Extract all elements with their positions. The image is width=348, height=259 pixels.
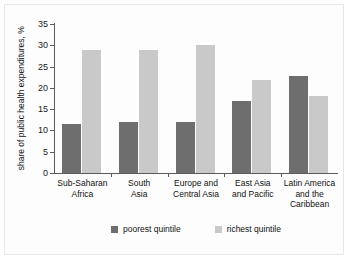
category-label-line: and the (281, 189, 338, 200)
plot-area: 05101520253035 (54, 24, 338, 173)
category-label-line: Sub-Saharan (54, 178, 111, 189)
category-label-line: East Asia (224, 178, 281, 189)
category-label-line: and Pacific (224, 189, 281, 200)
category-label-line: Latin America (281, 178, 338, 189)
legend-swatch-icon (111, 226, 118, 233)
y-axis-tick-mark (50, 67, 54, 68)
y-axis-tick-label: 0 (43, 169, 48, 178)
bar-chart-figure: share of public health expenditures, % 0… (0, 0, 348, 259)
category-label-line: Asia (111, 189, 168, 200)
category-label-line: Europe and (168, 178, 225, 189)
bar (82, 50, 101, 173)
x-axis-tick-mark (168, 173, 169, 177)
legend-label: richest quintile (227, 225, 281, 234)
category-label-line: Central Asia (168, 189, 225, 200)
bar (139, 50, 158, 173)
x-axis-line (54, 173, 338, 174)
legend-swatch-icon (215, 226, 222, 233)
bar (62, 124, 81, 173)
y-axis-tick-mark (50, 109, 54, 110)
y-axis-tick-label: 5 (43, 147, 48, 156)
y-axis-tick-mark (50, 152, 54, 153)
category-label-line: South (111, 178, 168, 189)
x-axis-tick-mark (111, 173, 112, 177)
bar (196, 45, 215, 173)
bar (289, 76, 308, 173)
y-axis-tick-mark (50, 88, 54, 89)
bar (252, 80, 271, 173)
x-axis-category-label: East Asiaand Pacific (224, 178, 281, 199)
category-label-line: Africa (54, 189, 111, 200)
y-axis-tick-label: 15 (38, 105, 48, 114)
x-axis-tick-mark (224, 173, 225, 177)
x-axis-category-label: SouthAsia (111, 178, 168, 199)
y-axis-tick-mark (50, 173, 54, 174)
y-axis-title: share of public health expenditures, % (14, 24, 28, 173)
x-axis-category-label: Sub-SaharanAfrica (54, 178, 111, 199)
y-axis-tick-label: 30 (38, 41, 48, 50)
x-axis-category-label: Latin Americaand theCaribbean (281, 178, 338, 210)
bar (119, 122, 138, 173)
y-axis-tick-label: 35 (38, 20, 48, 29)
legend-label: poorest quintile (123, 225, 181, 234)
y-axis-tick-mark (50, 24, 54, 25)
x-axis-category-labels: Sub-SaharanAfricaSouthAsiaEurope andCent… (54, 178, 338, 220)
bar (176, 122, 195, 173)
bar (309, 96, 328, 173)
bar (232, 101, 251, 173)
legend-item[interactable]: poorest quintile (111, 225, 181, 234)
chart-legend: poorest quintilerichest quintile (54, 225, 338, 234)
x-axis-tick-mark (281, 173, 282, 177)
x-axis-category-label: Europe andCentral Asia (168, 178, 225, 199)
legend-item[interactable]: richest quintile (215, 225, 281, 234)
y-axis-tick-mark (50, 45, 54, 46)
y-axis-tick-mark (50, 130, 54, 131)
category-label-line: Caribbean (281, 199, 338, 210)
y-axis-tick-label: 25 (38, 62, 48, 71)
y-axis-tick-label: 10 (38, 126, 48, 135)
y-axis-tick-label: 20 (38, 83, 48, 92)
y-axis-title-text: share of public health expenditures, % (17, 26, 26, 170)
